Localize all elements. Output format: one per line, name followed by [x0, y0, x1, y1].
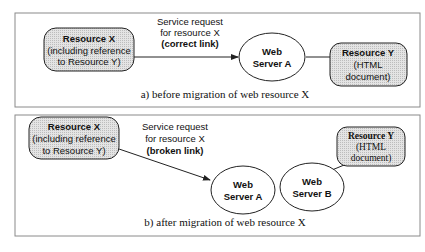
panel-a: Resource X (including reference to Resou… [15, 13, 420, 107]
web-server-b-node: Web Server B [280, 163, 344, 211]
resource-y-desc-line1: (HTML [356, 142, 386, 153]
resource-x-desc-line1: (including reference [47, 45, 130, 56]
resource-x-desc-line2: to Resource Y) [57, 56, 120, 67]
panel-b-caption: b) after migration of web resource X [144, 216, 305, 229]
server-a-line2: Server A [224, 191, 263, 202]
web-server-a-node-b: Web Server A [211, 166, 275, 214]
request-line1: Service request [142, 121, 208, 132]
panel-b: Resource X (including reference to Resou… [15, 115, 420, 236]
resource-y-desc-line2: document) [346, 71, 391, 82]
request-label-a: Service request for resource X (correct … [157, 16, 223, 49]
request-line3: (correct link) [161, 38, 219, 49]
server-a-line1: Web [233, 179, 253, 190]
resource-x-title: Resource X [48, 121, 101, 132]
server-b-line2: Server B [292, 188, 331, 199]
resource-y-desc-line1: (HTML [353, 59, 382, 70]
resource-x-node-b: Resource X (including reference to Resou… [29, 117, 119, 159]
resource-y-node-b: Resource Y (HTML document) [337, 127, 405, 166]
resource-y-title: Resource Y [342, 47, 395, 58]
server-b-line1: Web [302, 176, 322, 187]
panel-a-caption: a) before migration of web resource X [141, 88, 310, 101]
resource-x-desc-line1: (including reference [32, 133, 115, 144]
request-line2: for resource X [145, 133, 205, 144]
resource-y-title: Resource Y [348, 131, 394, 141]
request-label-b: Service request for resource X (broken l… [142, 121, 208, 156]
resource-y-node-a: Resource Y (HTML document) [330, 43, 407, 86]
request-line3: (broken link) [146, 145, 203, 156]
server-line2: Server A [253, 58, 292, 69]
resource-y-desc-line2: document) [351, 153, 392, 164]
server-line1: Web [262, 46, 282, 57]
resource-x-title: Resource X [63, 33, 116, 44]
resource-x-desc-line2: to Resource Y) [42, 145, 105, 156]
request-line2: for resource X [160, 27, 220, 38]
resource-x-node-a: Resource X (including reference to Resou… [44, 28, 134, 71]
web-server-a-node-a: Web Server A [239, 33, 305, 81]
migration-diagram: Resource X (including reference to Resou… [0, 0, 425, 252]
request-line1: Service request [157, 16, 223, 27]
